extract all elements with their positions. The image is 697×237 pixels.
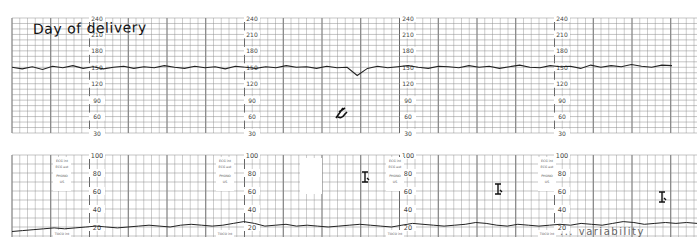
svg-text:TOCO int: TOCO int (54, 232, 70, 236)
svg-text:40: 40 (248, 206, 256, 214)
svg-text:PHONO: PHONO (541, 174, 553, 178)
svg-text:210: 210 (246, 31, 258, 38)
svg-text:ECG ext: ECG ext (219, 165, 233, 169)
fhr-trace (12, 65, 672, 76)
svg-text:ECG int: ECG int (541, 159, 554, 163)
svg-text:240: 240 (246, 15, 258, 22)
svg-text:120: 120 (556, 80, 568, 87)
svg-text:20: 20 (93, 224, 101, 232)
svg-text:150: 150 (402, 64, 414, 71)
svg-text:90: 90 (404, 97, 412, 104)
svg-text:210: 210 (402, 31, 414, 38)
svg-text:ECG ext: ECG ext (541, 165, 555, 169)
svg-text:80: 80 (93, 170, 101, 178)
svg-text:100: 100 (91, 152, 103, 160)
svg-text:PHONO: PHONO (56, 174, 68, 178)
svg-text:240: 240 (556, 15, 568, 22)
svg-text:100: 100 (556, 152, 568, 160)
svg-text:60: 60 (558, 113, 566, 120)
svg-text:40: 40 (404, 206, 412, 214)
svg-text:40: 40 (558, 206, 566, 214)
svg-text:150: 150 (556, 64, 568, 71)
svg-text:60: 60 (558, 188, 566, 196)
svg-text:30: 30 (248, 130, 256, 137)
svg-text:80: 80 (404, 170, 412, 178)
svg-text:TOCO int: TOCO int (217, 232, 233, 236)
svg-text:US: US (545, 180, 549, 184)
svg-text:120: 120 (246, 80, 258, 87)
svg-text:US: US (60, 180, 64, 184)
svg-text:PHONO: PHONO (219, 174, 231, 178)
svg-text:180: 180 (91, 47, 103, 54)
svg-text:20: 20 (248, 224, 256, 232)
svg-text:30: 30 (558, 130, 566, 137)
svg-text:80: 80 (558, 170, 566, 178)
svg-text:PHONO: PHONO (389, 174, 401, 178)
svg-text:US: US (393, 180, 397, 184)
svg-text:40: 40 (93, 206, 101, 214)
svg-text:90: 90 (93, 97, 101, 104)
svg-text:US: US (223, 180, 227, 184)
svg-text:90: 90 (248, 97, 256, 104)
svg-text:60: 60 (404, 188, 412, 196)
svg-text:60: 60 (93, 113, 101, 120)
svg-text:ECG ext: ECG ext (389, 165, 403, 169)
footer-text: ... variability (560, 226, 645, 237)
svg-text:30: 30 (404, 130, 412, 137)
svg-text:100: 100 (246, 152, 258, 160)
svg-text:240: 240 (402, 15, 414, 22)
svg-text:ECG int: ECG int (56, 159, 69, 163)
svg-text:120: 120 (402, 80, 414, 87)
svg-text:30: 30 (93, 130, 101, 137)
svg-text:60: 60 (248, 188, 256, 196)
svg-text:210: 210 (556, 31, 568, 38)
svg-text:TOCO int: TOCO int (387, 232, 403, 236)
svg-text:180: 180 (556, 47, 568, 54)
svg-text:60: 60 (248, 113, 256, 120)
svg-text:ECG int: ECG int (219, 159, 232, 163)
svg-text:60: 60 (93, 188, 101, 196)
svg-text:60: 60 (404, 113, 412, 120)
svg-text:180: 180 (402, 47, 414, 54)
svg-text:180: 180 (246, 47, 258, 54)
svg-text:120: 120 (91, 80, 103, 87)
svg-text:TOCO int: TOCO int (539, 232, 555, 236)
svg-text:ECG int: ECG int (389, 159, 402, 163)
chart-title: Day of delivery (33, 19, 147, 37)
svg-text:90: 90 (558, 97, 566, 104)
svg-text:ECG ext: ECG ext (56, 165, 70, 169)
svg-text:80: 80 (248, 170, 256, 178)
